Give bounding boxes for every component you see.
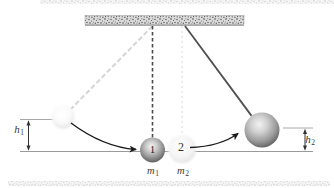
string-ball1-initial-ghost <box>71 26 153 109</box>
mass2-symbol: m <box>177 165 185 176</box>
ball2-number-label: 2 <box>178 141 184 153</box>
height2-label: h2 <box>305 133 315 146</box>
string-ball2-swung <box>185 26 252 116</box>
swing-arrow-ball2-up <box>190 134 238 148</box>
scan-artifact-top <box>40 0 334 4</box>
h1-dimension-arrow <box>27 120 31 151</box>
mass2-label: m2 <box>177 166 189 178</box>
scan-artifact-bottom <box>8 181 330 186</box>
ball1-number-label: 1 <box>150 144 156 155</box>
diagram-canvas <box>0 0 334 188</box>
height1-symbol: h <box>14 123 20 135</box>
height1-subscript: 1 <box>20 128 24 137</box>
ball2-final-sphere <box>245 113 280 148</box>
mass1-symbol: m <box>147 165 155 176</box>
height2-symbol: h <box>305 132 311 144</box>
height2-subscript: 2 <box>311 137 315 146</box>
height1-label: h1 <box>14 124 24 137</box>
mass1-subscript: 1 <box>155 169 159 178</box>
swing-arrow-ball1-down <box>71 123 136 150</box>
mass2-subscript: 2 <box>185 169 189 178</box>
mass1-label: m1 <box>147 166 159 178</box>
pendulum-collision-figure: 1 2 h1 h2 m1 m2 <box>0 0 334 188</box>
ball1-initial-ghost <box>52 106 75 129</box>
ceiling-bar <box>85 16 244 25</box>
